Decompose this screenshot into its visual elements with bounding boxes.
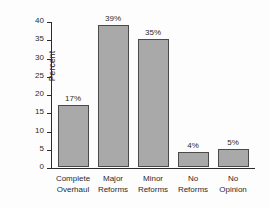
y-axis-tick-mark: [47, 77, 52, 78]
bar: [58, 105, 89, 167]
bar: [218, 149, 249, 167]
y-axis-tick-label: 35: [28, 34, 44, 43]
x-axis-category-line: Opinion: [206, 184, 260, 195]
y-axis-tick-mark: [47, 132, 52, 133]
y-axis-tick-label: 25: [28, 71, 44, 80]
bar: [98, 25, 129, 167]
y-axis-tick-label: 0: [28, 162, 44, 171]
y-axis-tick-mark: [47, 22, 52, 23]
bar-value-label: 39%: [92, 14, 135, 23]
y-axis-tick-mark: [47, 59, 52, 60]
y-axis-tick-label: 30: [28, 53, 44, 62]
bar-value-label: 4%: [172, 141, 215, 150]
x-axis-category-line: No: [206, 173, 260, 184]
bar-chart: Percent 4035302520151050 17%39%35%4%5% C…: [0, 0, 269, 208]
y-axis-tick-label: 20: [28, 89, 44, 98]
bar-column: 35%: [138, 21, 169, 167]
x-axis-line: [51, 168, 255, 169]
bar-column: 39%: [98, 21, 129, 167]
bar-value-label: 17%: [52, 94, 95, 103]
y-axis-tick-label: 5: [28, 144, 44, 153]
bar-column: 4%: [178, 21, 209, 167]
y-axis-tick-label: 40: [28, 16, 44, 25]
bar-value-label: 5%: [212, 138, 255, 147]
bar-value-label: 35%: [132, 28, 175, 37]
x-axis-category-label: NoOpinion: [206, 173, 260, 195]
bar-column: 17%: [58, 21, 89, 167]
y-axis-tick-mark: [47, 168, 52, 169]
bar: [178, 152, 209, 167]
y-axis-tick-mark: [47, 150, 52, 151]
y-axis-tick-label: 10: [28, 126, 44, 135]
y-axis-tick-mark: [47, 113, 52, 114]
y-axis-tick-label: 15: [28, 107, 44, 116]
plot-area: 4035302520151050 17%39%35%4%5% CompleteO…: [51, 22, 255, 168]
y-axis-tick-mark: [47, 40, 52, 41]
bar-column: 5%: [218, 21, 249, 167]
bar: [138, 39, 169, 167]
